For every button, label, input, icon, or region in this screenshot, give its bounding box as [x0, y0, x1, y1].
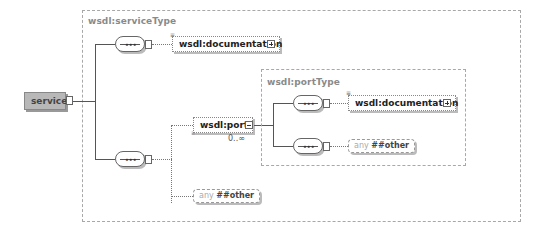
sequence-toggle[interactable] — [145, 40, 152, 49]
connector — [171, 196, 193, 197]
any-namespace: ##other — [371, 141, 409, 150]
expand-icon[interactable] — [267, 40, 275, 48]
connector — [73, 101, 95, 102]
connector — [330, 146, 348, 147]
connector — [152, 159, 172, 160]
sequence-compositor-icon[interactable]: ••• — [293, 138, 323, 154]
service-element-label: service — [31, 96, 67, 106]
collapse-icon[interactable] — [245, 121, 253, 129]
documentation-element[interactable]: wsdl:documentation — [172, 36, 280, 52]
sequence-toggle[interactable] — [145, 155, 152, 164]
connector — [171, 125, 172, 203]
any-other-wildcard[interactable]: any ##other — [348, 139, 415, 153]
sequence-toggle[interactable] — [323, 142, 330, 151]
service-element[interactable]: service — [24, 92, 66, 110]
connector — [95, 44, 115, 45]
sequence-dots-icon: ••• — [125, 157, 137, 163]
any-namespace: ##other — [216, 191, 254, 200]
connector — [95, 44, 96, 160]
expand-icon[interactable] — [443, 99, 451, 107]
connector — [152, 44, 172, 45]
service-type-label: wsdl:serviceType — [88, 16, 176, 26]
sequence-toggle[interactable] — [323, 99, 330, 108]
any-keyword: any — [199, 191, 214, 200]
sequence-dots-icon: ••• — [303, 144, 315, 150]
port-type-label: wsdl:portType — [267, 77, 340, 87]
documentation-element[interactable]: wsdl:documentation — [348, 95, 456, 111]
sequence-dots-icon: ••• — [303, 101, 315, 107]
any-keyword: any — [354, 141, 369, 150]
connector — [330, 103, 348, 104]
sequence-compositor-icon[interactable]: ••• — [115, 151, 145, 167]
sequence-dots-icon: ••• — [125, 42, 137, 48]
sequence-compositor-icon[interactable]: ••• — [293, 95, 323, 111]
port-element[interactable]: wsdl:port — [193, 117, 253, 133]
port-multiplicity: 0..∞ — [228, 134, 245, 143]
sequence-compositor-icon[interactable]: ••• — [115, 36, 145, 52]
connector — [171, 125, 193, 126]
any-other-wildcard[interactable]: any ##other — [193, 189, 260, 203]
connector — [95, 159, 115, 160]
service-collapse-toggle[interactable] — [66, 96, 73, 105]
port-label: wsdl:port — [200, 120, 248, 130]
